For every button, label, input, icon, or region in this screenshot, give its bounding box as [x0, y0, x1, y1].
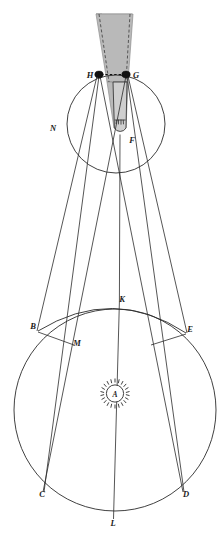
labels-group: H G N F K B E M C D L [29, 70, 193, 528]
label-l: L [109, 518, 115, 528]
label-b: B [29, 321, 36, 331]
label-d: D [182, 489, 189, 499]
arc-bke [38, 308, 186, 333]
vertical-axis-k-l [114, 302, 120, 519]
ray-h-to-d [100, 76, 183, 492]
node-dot-g [122, 71, 130, 78]
aperture-stem [119, 135, 120, 303]
ray-lines-group [37, 76, 187, 492]
optical-diagram-svg: A H G N F K B E M C D L [0, 0, 224, 535]
label-e: E [186, 324, 193, 334]
label-a: A [111, 390, 117, 399]
label-g: G [133, 70, 140, 80]
label-h: H [86, 70, 94, 80]
figure-root: A H G N F K B E M C D L [0, 0, 224, 535]
ray-h-to-c [44, 76, 99, 492]
sun-symbol-a: A [101, 379, 130, 409]
ray-outer-left-to-b [37, 76, 97, 331]
lower-circle [14, 309, 216, 511]
label-c: C [39, 489, 45, 499]
ray-outer-right-to-e [128, 76, 187, 333]
chord-e-to-inner [151, 334, 186, 345]
node-dot-h [95, 71, 103, 78]
aperture-tube-group [113, 82, 127, 302]
label-f: F [128, 135, 135, 145]
label-n: N [49, 123, 57, 133]
label-m: M [72, 338, 81, 348]
label-k: K [118, 294, 126, 304]
ray-g-to-c [43, 76, 126, 492]
